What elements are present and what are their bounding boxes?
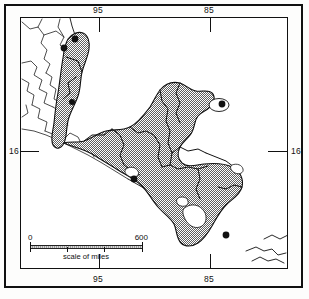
scale-max-label: 600 xyxy=(135,234,148,242)
point-locality-dot xyxy=(72,36,79,43)
lake-managua xyxy=(177,197,189,206)
distribution-map-figure: 95 85 95 85 16 16 0 600 scale of miles xyxy=(0,0,309,299)
scale-min-label: 0 xyxy=(28,234,32,242)
tick-longitude-95-top xyxy=(99,18,100,32)
latitude-label-16-left: 16 xyxy=(9,147,19,156)
longitude-label-95-top: 95 xyxy=(93,6,103,15)
tick-longitude-85-top xyxy=(210,18,211,32)
range-lobe-north xyxy=(52,32,90,148)
tick-longitude-85-bottom xyxy=(210,254,211,269)
point-locality-dot xyxy=(131,176,138,183)
map-panel xyxy=(20,17,288,269)
scale-bar-cap-right xyxy=(142,242,143,252)
point-locality-dot xyxy=(69,99,75,105)
map-drawing xyxy=(20,17,288,269)
shaded-distribution-range xyxy=(52,32,243,246)
scale-bar xyxy=(30,245,143,249)
point-locality-dot xyxy=(61,45,68,52)
longitude-label-85-top: 85 xyxy=(204,6,214,15)
latitude-label-16-right: 16 xyxy=(291,147,301,156)
tick-latitude-16-left xyxy=(21,151,39,152)
scale-caption: scale of miles xyxy=(28,253,144,261)
longitude-label-95-bottom: 95 xyxy=(93,275,103,284)
tick-latitude-16-right xyxy=(268,151,288,152)
scale-bar-cap-left xyxy=(30,242,31,252)
point-locality-dot xyxy=(219,101,226,108)
longitude-label-85-bottom: 85 xyxy=(204,275,214,284)
point-locality-dot xyxy=(223,232,230,239)
